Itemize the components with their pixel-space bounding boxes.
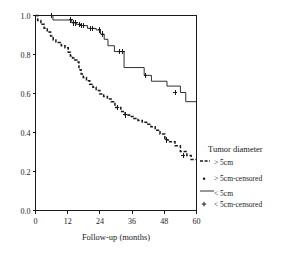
x-tick-label: 36 <box>128 217 136 226</box>
y-tick-label: 0.4 <box>21 129 31 138</box>
x-tick-label: 24 <box>96 217 104 226</box>
plot-frame <box>36 16 197 211</box>
survival-plot: 0.00.20.40.60.81.0 01224364860 Follow-up… <box>0 0 287 254</box>
x-tick-label: 48 <box>160 217 168 226</box>
censor-mark <box>123 112 127 117</box>
curve-group <box>36 16 197 160</box>
legend-entry-label: < 5cm-censored <box>214 200 262 209</box>
y-tick-label: 0.2 <box>21 168 31 177</box>
legend-entry[interactable]: > 5cm <box>200 158 233 167</box>
legend-entry[interactable]: < 5cm-censored <box>202 200 263 209</box>
x-tick-label: 60 <box>193 217 201 226</box>
curve-lt5cm <box>36 16 197 102</box>
x-tick-label: 0 <box>34 217 38 226</box>
x-tick-label: 12 <box>64 217 72 226</box>
y-axis-ticks: 0.00.20.40.60.81.0 <box>21 12 36 216</box>
y-tick-label: 0.8 <box>21 51 31 60</box>
y-tick-label: 0.6 <box>21 90 31 99</box>
censor-mark <box>69 17 73 22</box>
legend-square-dot-icon <box>203 178 205 180</box>
censor-mark <box>181 153 185 158</box>
legend-entry[interactable]: > 5cm-censored <box>203 174 262 183</box>
curve-gt5cm <box>36 16 197 160</box>
legend: Tumor diameter> 5cm> 5cm-censored< 5cm< … <box>200 144 263 209</box>
legend-entry[interactable]: < 5cm <box>200 189 233 198</box>
x-axis-ticks: 01224364860 <box>34 211 201 226</box>
x-axis-title: Follow-up (months) <box>82 232 150 242</box>
legend-entry-label: > 5cm <box>214 158 233 167</box>
y-tick-label: 1.0 <box>21 12 31 21</box>
censor-mark <box>116 105 120 110</box>
legend-entry-label: < 5cm <box>214 189 233 198</box>
censor-mark <box>173 90 177 95</box>
y-tick-label: 0.0 <box>21 207 31 216</box>
figure-root: 0.00.20.40.60.81.0 01224364860 Follow-up… <box>0 0 287 254</box>
censor-mark <box>117 49 121 54</box>
legend-title: Tumor diameter <box>208 144 263 154</box>
censor-mark <box>91 26 95 31</box>
legend-entry-label: > 5cm-censored <box>214 174 262 183</box>
